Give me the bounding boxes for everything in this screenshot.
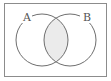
label-b: B — [83, 11, 91, 24]
label-a: A — [22, 11, 32, 24]
venn-diagram: A B — [0, 0, 111, 81]
